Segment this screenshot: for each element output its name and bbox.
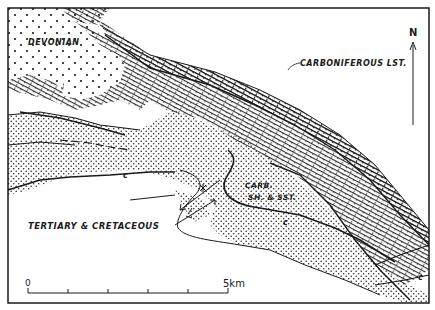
label-devonian: DEVONIAN: [28, 38, 80, 47]
geological-map: DEVONIAN CARBONIFEROUS LST. CARB. SH. & …: [0, 0, 435, 310]
label-shale-sandstone: SH. & SST.: [248, 193, 297, 202]
label-carboniferous-limestone: CARBONIFEROUS LST.: [300, 59, 407, 68]
contact-mark: c: [123, 171, 128, 180]
label-tertiary-cretaceous: TERTIARY & CRETACEOUS: [28, 221, 159, 231]
contact-mark: c: [283, 218, 288, 227]
north-label: N: [409, 27, 417, 38]
scale-end-label: 5km: [223, 278, 245, 289]
label-carb: CARB.: [245, 181, 273, 190]
contact-mark: c: [418, 273, 423, 282]
scale-start-label: 0: [25, 278, 31, 288]
